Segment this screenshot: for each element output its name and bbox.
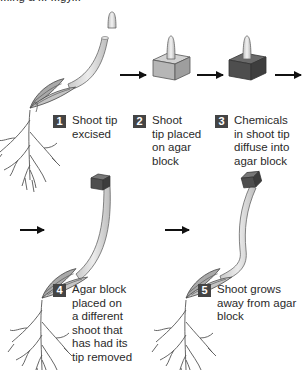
step-3-line-4: agar block — [234, 155, 290, 169]
step-5-line-2: away from agar — [217, 297, 296, 311]
arrow-1-icon — [118, 70, 148, 80]
step-2-badge: 2 — [133, 115, 146, 128]
step-4-line-4: shoot that — [72, 324, 132, 338]
seedling-5-illustration — [150, 170, 305, 370]
step-5-line-1: Shoot grows — [217, 283, 296, 297]
arrow-3-icon — [273, 70, 303, 80]
step-5-line-3: block — [217, 310, 296, 324]
step-2-line-4: block — [152, 155, 201, 169]
step-3-line-1: Chemicals — [234, 114, 290, 128]
step-2-line-2: tip placed — [152, 128, 201, 142]
excised-tip-icon — [108, 12, 116, 28]
step-4-line-5: has had its — [72, 337, 132, 351]
step-4-line-1: Agar block — [72, 283, 132, 297]
step-3-line-2: in shoot tip — [234, 128, 290, 142]
step-4-line-2: placed on — [72, 297, 132, 311]
arrow-2-icon — [195, 70, 225, 80]
step-1-line-1: Shoot tip — [72, 114, 117, 128]
arrow-4-icon — [18, 225, 48, 235]
step-3-badge: 3 — [215, 115, 228, 128]
step-4-badge: 4 — [53, 284, 66, 297]
arrow-5-icon — [163, 225, 193, 235]
step-2-line-3: on agar — [152, 141, 201, 155]
step-2-line-1: Shoot — [152, 114, 201, 128]
step-5-badge: 5 — [198, 284, 211, 297]
step-4-line-6: tip removed — [72, 351, 132, 365]
agar-block-tilted-icon — [240, 169, 262, 189]
step-1-line-2: excised — [72, 128, 117, 142]
agar-block-on-shoot-icon — [91, 174, 110, 190]
agar-block-dark-icon — [226, 30, 271, 85]
agar-block-light-icon — [150, 30, 195, 85]
step-1-badge: 1 — [53, 115, 66, 128]
step-4-line-3: a different — [72, 310, 132, 324]
step-3-line-3: diffuse into — [234, 141, 290, 155]
